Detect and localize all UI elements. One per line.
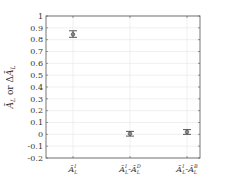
y-tick-label: 0.8	[30, 35, 43, 44]
error-bar-point	[183, 130, 191, 135]
y-tick-label: 0.2	[30, 106, 43, 115]
error-bar-point	[126, 131, 134, 136]
x-category-label-3: ĀIL-ĀBL	[175, 163, 198, 175]
x-category-label-2: ĀIL-ĀDL	[118, 163, 141, 175]
error-bar-point	[69, 31, 77, 38]
y-tick-label: -0.1	[28, 142, 43, 151]
y-tick-label: 0.6	[30, 59, 43, 68]
y-tick-label: 1	[38, 12, 43, 21]
mean-marker	[71, 33, 75, 37]
x-category-label-1: ĀIL	[67, 163, 78, 175]
y-tick-label: 0.7	[30, 47, 43, 56]
y-tick-label: 0.1	[30, 118, 43, 127]
y-tick-label: 0.4	[30, 83, 43, 92]
y-tick-label: 0.3	[30, 95, 43, 104]
y-tick-label: 0.9	[30, 24, 43, 33]
y-axis-label: ĀL or ΔĀL	[4, 66, 16, 110]
y-tick-label: -0.2	[28, 154, 43, 163]
error-bar-chart: 10.90.80.70.60.50.40.30.20.10-0.1-0.2 ĀL…	[0, 0, 226, 181]
mean-marker	[128, 132, 132, 136]
y-tick-label: 0	[38, 130, 43, 139]
y-axis-ticks: 10.90.80.70.60.50.40.30.20.10-0.1-0.2	[28, 12, 200, 163]
y-tick-label: 0.5	[30, 71, 43, 80]
mean-marker	[185, 130, 189, 134]
